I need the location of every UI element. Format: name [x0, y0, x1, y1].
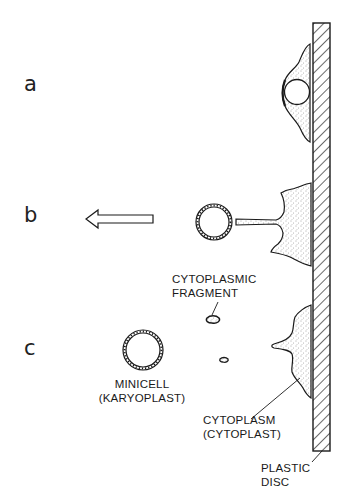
minicell-label: MINICELL (KARYOPLAST) [94, 377, 190, 405]
nucleus [285, 80, 310, 105]
cytoplasmic-fragment [206, 302, 228, 362]
cytoplast [272, 305, 311, 398]
enucleation-diagram [0, 0, 347, 501]
panel-label-c: c [24, 338, 36, 359]
panel-label-b: b [24, 205, 37, 226]
intact-cell [283, 44, 310, 142]
plastic-disc-label: PLASTIC DISC [261, 461, 310, 489]
panel-label-a: a [24, 74, 37, 95]
cytoplasmic-fragment-label: CYTOPLASMIC FRAGMENT [172, 272, 256, 300]
cytoplasm-label: CYTOPLASM (CYTOPLAST) [203, 413, 281, 441]
plastic-disc [313, 23, 330, 451]
enucleating-cell [196, 183, 311, 266]
minicell [123, 330, 163, 370]
plastic-disc-leader-line [312, 451, 322, 462]
left-arrow-icon [86, 210, 153, 228]
